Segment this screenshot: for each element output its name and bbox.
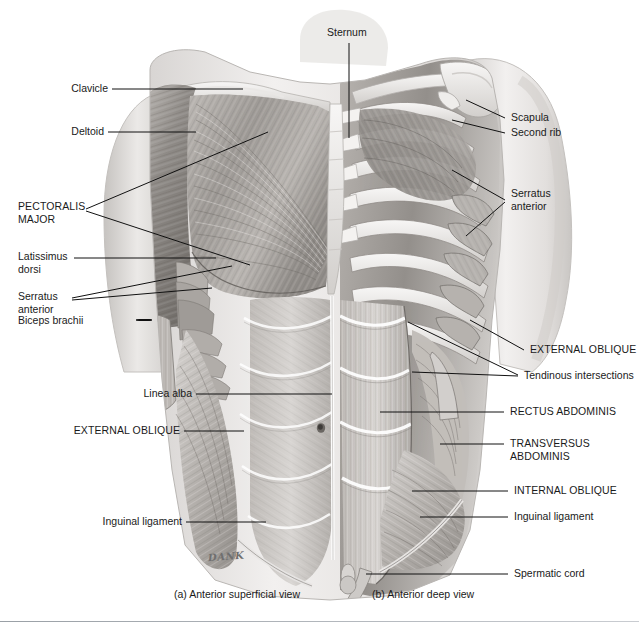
anatomy-illustration: [0, 0, 639, 631]
bottom-rule: [0, 621, 639, 622]
figure-page: CHAPTER 11 Muscles of the Shoulder: [0, 0, 639, 631]
